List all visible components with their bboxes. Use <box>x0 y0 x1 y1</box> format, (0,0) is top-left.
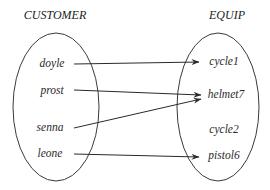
customer-element-leone: leone <box>38 147 63 159</box>
customer-element-senna: senna <box>37 121 64 133</box>
set-mapping-diagram: CUSTOMER EQUIP doyle prost senna leone c… <box>0 0 270 190</box>
customer-element-prost: prost <box>39 84 64 97</box>
customer-element-doyle: doyle <box>40 57 65 70</box>
arrow-senna-to-helmet7 <box>74 99 201 128</box>
equip-set-title: EQUIP <box>208 8 246 22</box>
arrow-doyle-to-cycle1 <box>74 62 199 64</box>
arrow-prost-to-helmet7 <box>74 90 201 95</box>
equip-element-cycle2: cycle2 <box>209 123 239 136</box>
arrow-leone-to-pistol6 <box>74 154 199 157</box>
equip-element-helmet7: helmet7 <box>208 88 246 100</box>
equip-element-cycle1: cycle1 <box>209 55 238 68</box>
customer-set-title: CUSTOMER <box>24 8 87 22</box>
equip-element-pistol6: pistol6 <box>207 149 240 162</box>
